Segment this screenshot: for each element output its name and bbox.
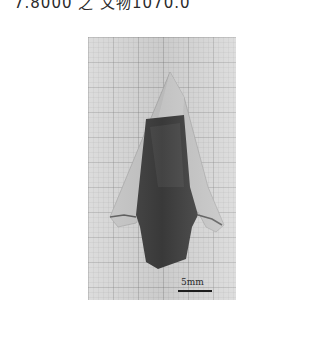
scale-bar-label: 5mm <box>181 277 204 287</box>
figure-caption: 7.8000 之 文物1070.0 <box>14 0 191 12</box>
artifact-photo: 5mm <box>88 37 236 300</box>
photo-shading <box>88 37 236 300</box>
scale-bar <box>178 290 212 292</box>
